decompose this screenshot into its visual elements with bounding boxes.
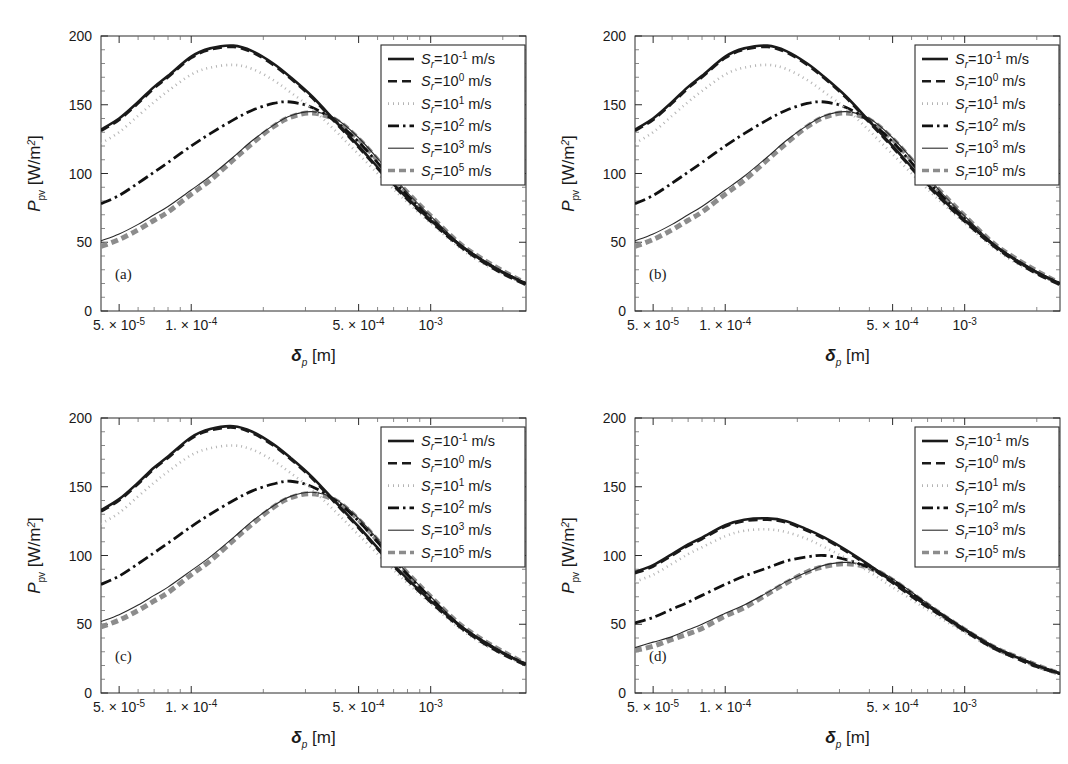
y-tick-label: 100 <box>603 166 627 182</box>
x-axis-label: δp [m] <box>825 728 869 750</box>
y-axis-label: Ppv [W/m2] <box>559 517 581 594</box>
panel-label-b: (b) <box>649 266 667 283</box>
x-tick-label: 1. × 10-4 <box>699 316 752 333</box>
y-axis-label: Ppv [W/m2] <box>25 135 47 212</box>
plot-panel-b: 0501001502005. × 10-51. × 10-45. × 10-41… <box>534 0 1068 382</box>
y-tick-label: 100 <box>69 166 93 182</box>
x-axis-label: δp [m] <box>825 346 869 368</box>
plot-panel-a: 0501001502005. × 10-51. × 10-45. × 10-41… <box>0 0 534 382</box>
plot-panel-d: 0501001502005. × 10-51. × 10-45. × 10-41… <box>534 382 1068 764</box>
y-tick-label: 200 <box>69 28 93 44</box>
y-tick-label: 100 <box>69 548 93 564</box>
x-tick-label: 5. × 10-4 <box>867 316 920 333</box>
x-tick-label: 10-3 <box>952 316 977 333</box>
x-tick-label: 1. × 10-4 <box>165 316 218 333</box>
x-tick-label: 5. × 10-5 <box>627 316 680 333</box>
x-tick-label: 5. × 10-5 <box>93 316 146 333</box>
plot-panel-c: 0501001502005. × 10-51. × 10-45. × 10-41… <box>0 382 534 764</box>
y-axis-label: Ppv [W/m2] <box>559 135 581 212</box>
y-tick-label: 150 <box>69 97 93 113</box>
y-tick-label: 50 <box>76 616 92 632</box>
y-tick-label: 150 <box>603 97 627 113</box>
y-axis-label: Ppv [W/m2] <box>25 517 47 594</box>
y-tick-label: 200 <box>603 410 627 426</box>
x-tick-label: 5. × 10-4 <box>867 698 920 715</box>
y-tick-label: 150 <box>603 479 627 495</box>
x-tick-label: 5. × 10-4 <box>333 316 386 333</box>
panel-label-d: (d) <box>649 648 667 665</box>
y-tick-label: 0 <box>84 303 92 319</box>
x-tick-label: 5. × 10-5 <box>93 698 146 715</box>
legend: Sr=10-1 m/sSr=100 m/sSr=101 m/sSr=102 m/… <box>915 45 1059 185</box>
legend: Sr=10-1 m/sSr=100 m/sSr=101 m/sSr=102 m/… <box>381 427 525 567</box>
x-axis-label: δp [m] <box>291 728 335 750</box>
series-line-5 <box>635 564 1060 674</box>
panel-label-c: (c) <box>115 648 132 665</box>
y-tick-label: 50 <box>76 234 92 250</box>
figure-panel-grid: 0501001502005. × 10-51. × 10-45. × 10-41… <box>0 0 1068 764</box>
legend: Sr=10-1 m/sSr=100 m/sSr=101 m/sSr=102 m/… <box>381 45 525 185</box>
x-tick-label: 1. × 10-4 <box>165 698 218 715</box>
svg-text:Ppv [W/m2]: Ppv [W/m2] <box>25 135 47 212</box>
svg-text:Ppv [W/m2]: Ppv [W/m2] <box>25 517 47 594</box>
x-tick-label: 5. × 10-5 <box>627 698 680 715</box>
panel-label-a: (a) <box>115 266 132 283</box>
series-line-2 <box>635 555 1060 673</box>
x-tick-label: 10-3 <box>952 698 977 715</box>
legend: Sr=10-1 m/sSr=100 m/sSr=101 m/sSr=102 m/… <box>915 427 1059 567</box>
x-tick-label: 10-3 <box>418 316 443 333</box>
y-tick-label: 200 <box>603 28 627 44</box>
svg-text:Ppv [W/m2]: Ppv [W/m2] <box>559 517 581 594</box>
y-tick-label: 200 <box>69 410 93 426</box>
series-line-3 <box>635 562 1060 672</box>
y-tick-label: 0 <box>618 685 626 701</box>
y-tick-label: 150 <box>69 479 93 495</box>
y-tick-label: 0 <box>84 685 92 701</box>
x-tick-label: 5. × 10-4 <box>333 698 386 715</box>
y-tick-label: 100 <box>603 548 627 564</box>
y-tick-label: 0 <box>618 303 626 319</box>
x-tick-label: 10-3 <box>418 698 443 715</box>
x-tick-label: 1. × 10-4 <box>699 698 752 715</box>
svg-text:Ppv [W/m2]: Ppv [W/m2] <box>559 135 581 212</box>
y-tick-label: 50 <box>610 234 626 250</box>
x-axis-label: δp [m] <box>291 346 335 368</box>
y-tick-label: 50 <box>610 616 626 632</box>
